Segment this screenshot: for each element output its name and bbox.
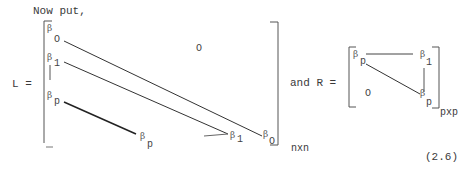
R-beta1-subscript: 1 <box>426 57 432 68</box>
L-beta0-end-symbol: β <box>263 129 268 139</box>
R-size-label: pxp <box>440 107 458 119</box>
L-beta0-symbol: β <box>47 23 52 33</box>
L-betap-subscript: p <box>54 96 60 107</box>
L-beta0-subscript: O <box>54 34 60 45</box>
R-betap-bottomright-subscript: p <box>426 97 432 108</box>
L-beta1-end-subscript: 1 <box>237 134 243 145</box>
L-beta0-end-subscript: O <box>269 136 275 147</box>
L-zero-entry: O <box>196 43 202 54</box>
L-betap-symbol: β <box>47 90 52 100</box>
L-betap-end-subscript: p <box>147 139 153 150</box>
equation-number: (2.6) <box>425 151 458 163</box>
R-betap-topleft-subscript: p <box>360 56 366 67</box>
L-beta1-symbol: β <box>47 52 52 62</box>
intro-text: Now put, <box>33 5 86 17</box>
R-zero-entry: O <box>365 88 371 99</box>
L-betap-end-symbol: β <box>140 131 145 141</box>
R-betap-bottomright-symbol: β <box>420 88 425 98</box>
R-beta1-symbol: β <box>420 49 425 59</box>
L-size-label: nxn <box>291 143 309 155</box>
L-beta1-subscript: 1 <box>54 58 60 69</box>
R-betap-topleft-symbol: β <box>353 49 358 59</box>
L-label: L = <box>12 78 32 90</box>
L-beta1-end-symbol: β <box>230 130 235 140</box>
and-R-text: and R = <box>290 77 336 89</box>
